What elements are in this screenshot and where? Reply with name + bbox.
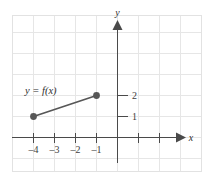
x-tick-label-neg3: –3	[49, 144, 60, 155]
y-axis	[113, 20, 128, 163]
coordinate-plane-svg: –4 –3 –2 –1 2 1 x y y = f(x)	[0, 0, 205, 183]
line-segment	[34, 96, 97, 117]
endpoint-dot-right	[93, 92, 100, 99]
y-axis-label: y	[114, 7, 120, 18]
y-tick-label-2: 2	[132, 90, 137, 101]
function-graph-figure: –4 –3 –2 –1 2 1 x y y = f(x)	[0, 0, 205, 183]
x-axis	[12, 133, 186, 143]
function-annotation-label: y = f(x)	[24, 85, 57, 97]
endpoint-dot-left	[30, 113, 37, 120]
y-tick-label-1: 1	[132, 111, 137, 122]
x-tick-label-neg1: –1	[91, 144, 102, 155]
x-axis-label: x	[188, 132, 194, 143]
x-tick-label-neg2: –2	[70, 144, 81, 155]
function-segment	[30, 92, 100, 120]
y-axis-arrow	[113, 20, 123, 30]
x-tick-label-neg4: –4	[28, 144, 39, 155]
